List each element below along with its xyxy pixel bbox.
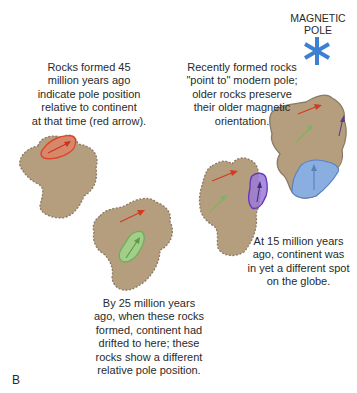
caption-25-million: By 25 million years ago, when these rock… — [84, 297, 214, 377]
magnetic-pole-asterisk-icon — [305, 37, 329, 65]
caption-recent-rocks: Recently formed rocks "point to" modern … — [182, 61, 302, 128]
magnetic-pole-label: MAGNETIC POLE — [290, 12, 346, 36]
panel-label: B — [12, 373, 20, 387]
continent-25ma — [93, 198, 172, 290]
caption-15-million: At 15 million years ago, continent was i… — [240, 235, 357, 289]
caption-45-million: Rocks formed 45 million years ago indica… — [14, 61, 164, 128]
continent-45ma — [20, 135, 97, 218]
purple-rock-region — [249, 173, 268, 208]
